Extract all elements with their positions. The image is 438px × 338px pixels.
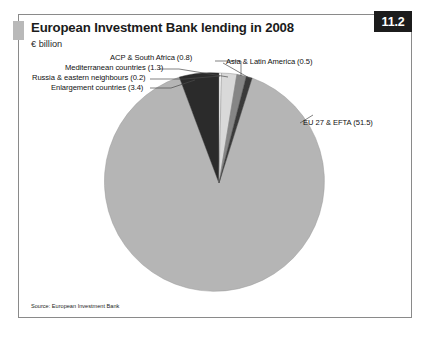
slice-label-asia-latin-america: Asia & Latin America (0.5) — [226, 57, 313, 66]
pie-chart-plot-area: ACP & South Africa (0.8) Mediterranean c… — [19, 15, 413, 319]
slice-label-enlargement-countries: Enlargement countries (3.4) — [51, 83, 143, 92]
pie-chart-svg — [19, 15, 413, 319]
slice-label-acp-south-africa: ACP & South Africa (0.8) — [110, 53, 192, 62]
slice-label-mediterranean-countries: Mediterranean countries (1.3) — [65, 63, 163, 72]
slice-label-russia-eastern-neighbours: Russia & eastern neighbours (0.2) — [32, 73, 146, 82]
slice-label-eu-27-efta: EU 27 & EFTA (51.5) — [303, 118, 373, 127]
figure-frame: European Investment Bank lending in 2008… — [18, 14, 412, 318]
source-note: Source: European Investment Bank — [31, 303, 119, 309]
